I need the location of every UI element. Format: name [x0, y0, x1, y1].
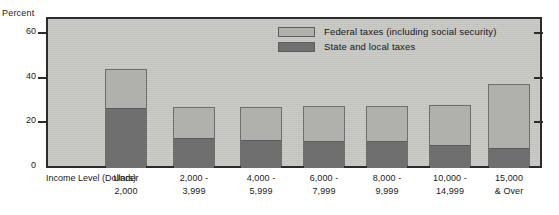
y-tick-mark-left [38, 32, 47, 34]
bar-segment-state [367, 141, 407, 168]
y-tick-mark-right [534, 121, 543, 123]
x-axis-label-line1: 15,000 [495, 173, 523, 183]
bar-0 [105, 69, 147, 166]
bar-3 [303, 106, 345, 166]
bar-2 [240, 107, 282, 166]
x-axis-labels: Income Level (Dollars) Under2,0002,000 -… [0, 172, 559, 212]
bar-segment-federal [367, 107, 407, 142]
bar-segment-state [489, 148, 529, 168]
bar-6 [488, 84, 530, 166]
bar-4 [366, 106, 408, 166]
bar-segment-federal [489, 85, 529, 148]
bar-segment-federal [241, 108, 281, 140]
y-tick-mark-left [38, 77, 47, 79]
y-tick-mark-right [534, 77, 543, 79]
bar-segment-federal [430, 106, 470, 145]
legend-item-state: State and local taxes [278, 40, 496, 53]
x-axis-label-6: 15,000& Over [464, 172, 554, 198]
legend-label-federal: Federal taxes (including social security… [324, 26, 496, 37]
y-tick-mark-right [534, 32, 543, 34]
bar-segment-state [430, 145, 470, 168]
legend-item-federal: Federal taxes (including social security… [278, 25, 496, 38]
x-axis-label-line1: 10,000 - [433, 173, 467, 183]
bar-5 [429, 105, 471, 166]
bar-segment-federal [106, 70, 146, 108]
x-axis-label-line1: 2,000 - [180, 173, 209, 183]
x-axis-label-line1: 4,000 - [247, 173, 276, 183]
bar-segment-state [304, 141, 344, 168]
bar-segment-federal [304, 107, 344, 142]
bar-segment-federal [174, 108, 214, 138]
bar-segment-state [174, 138, 214, 168]
bar-segment-state [241, 140, 281, 168]
bar-chart: Percent 6040200 Federal taxes (including… [0, 0, 559, 215]
y-tick-label: 0 [31, 160, 36, 170]
y-tick-label: 20 [26, 115, 36, 125]
y-tick-label: 60 [26, 26, 36, 36]
legend: Federal taxes (including social security… [278, 25, 496, 55]
legend-swatch-state-icon [278, 42, 315, 52]
bar-segment-state [106, 108, 146, 168]
x-axis-label-line2: & Over [464, 185, 554, 198]
legend-label-state: State and local taxes [324, 41, 415, 52]
bar-1 [173, 107, 215, 166]
y-axis-title: Percent [2, 8, 34, 18]
y-tick-mark-left [38, 121, 47, 123]
y-tick-label: 40 [26, 71, 36, 81]
x-axis-label-line1: Under [113, 173, 138, 183]
x-axis-label-line1: 6,000 - [310, 173, 339, 183]
x-axis-label-line1: 8,000 - [373, 173, 402, 183]
legend-swatch-federal-icon [278, 27, 315, 37]
